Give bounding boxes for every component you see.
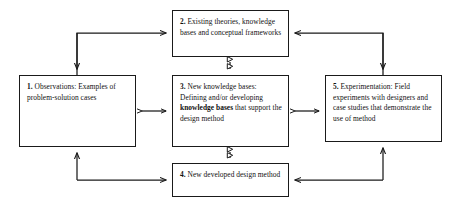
diagram-canvas: 1. Observations: Examples of problem-sol…	[0, 0, 459, 210]
node-emphasis: knowledge bases	[180, 103, 233, 112]
node-heading: New developed design	[186, 170, 256, 179]
diagram-node-new-knowledge-bases[interactable]: 3. New knowledge bases: Defining and/or …	[172, 75, 289, 147]
diagram-node-new-developed-design-method[interactable]: 4. New developed design method	[172, 163, 289, 197]
node-heading: Existing theories,	[186, 17, 241, 26]
node-heading: Experimentation:	[339, 82, 393, 91]
diagram-node-existing-theories[interactable]: 2. Existing theories, knowledge bases an…	[172, 10, 289, 57]
node-body: method	[258, 170, 280, 179]
node-heading: Observations:	[33, 82, 77, 91]
diagram-node-experimentation[interactable]: 5. Experimentation: Field experiments wi…	[325, 75, 442, 142]
node-heading: New knowledge bases:	[186, 82, 257, 91]
node-body-before: Defining and/or developing	[180, 93, 263, 102]
diagram-node-observations[interactable]: 1. Observations: Examples of problem-sol…	[19, 75, 136, 147]
